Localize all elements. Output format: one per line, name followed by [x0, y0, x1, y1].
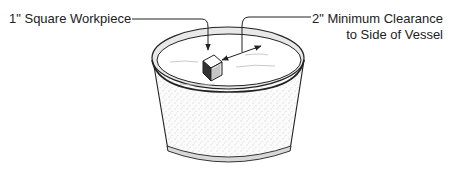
- clearance-label-line1: 2" Minimum Clearance: [312, 11, 443, 26]
- vessel: [152, 27, 304, 162]
- vessel-rim-inner: [157, 34, 301, 86]
- workpiece-label: 1" Square Workpiece: [9, 11, 131, 26]
- clearance-label-line2: to Side of Vessel: [346, 27, 443, 42]
